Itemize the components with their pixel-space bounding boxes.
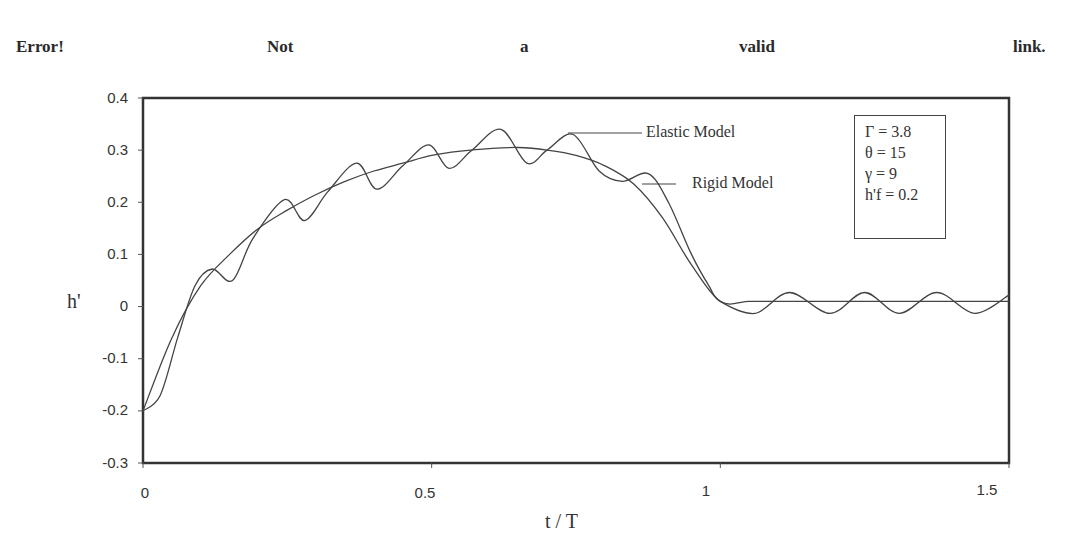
x-tick-label: 0 [125, 484, 165, 501]
elastic-model-label: Elastic Model [646, 123, 735, 141]
y-tick-label: 0 [78, 297, 128, 314]
line-chart [0, 0, 1079, 555]
y-tick-label: 0.4 [78, 89, 128, 106]
y-tick-label: 0.2 [78, 193, 128, 210]
y-tick-label: -0.1 [78, 349, 128, 366]
y-tick-label: 0.3 [78, 141, 128, 158]
y-tick-label: -0.2 [78, 401, 128, 418]
param-hf: h'f = 0.2 [865, 184, 945, 205]
y-axis-title: h' [67, 290, 81, 313]
y-tick-label: 0.1 [78, 245, 128, 262]
x-tick-label: 1 [686, 482, 726, 499]
rigid-model-label: Rigid Model [692, 174, 773, 192]
x-tick-label: 0.5 [405, 484, 445, 501]
param-gamma: γ = 9 [865, 163, 945, 184]
param-theta: θ = 15 [865, 142, 945, 163]
y-tick-label: -0.3 [78, 454, 128, 471]
x-axis-title: t / T [545, 510, 578, 533]
x-tick-label: 1.5 [967, 481, 1007, 498]
param-gamma-upper: Γ = 3.8 [865, 121, 945, 142]
parameter-box: Γ = 3.8 θ = 15 γ = 9 h'f = 0.2 [854, 115, 946, 239]
